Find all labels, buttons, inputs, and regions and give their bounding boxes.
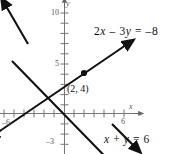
eq2-equals: =: [133, 133, 140, 145]
graph-canvas: [0, 0, 178, 154]
y-tick-label-5: 5: [55, 60, 59, 68]
coordinate-graph-figure: 10 5 –3 –6 6 x y (2, 4) 2x – 3y = –8 x +…: [0, 0, 178, 154]
x-axis-label: x: [129, 103, 133, 111]
equation-label-line-2: x + y = 6: [104, 134, 150, 146]
eq1-operator: –: [110, 25, 116, 37]
eq2-var-y: y: [124, 133, 130, 145]
equation-label-line-1: 2x – 3y = –8: [94, 26, 158, 38]
eq1-equals: =: [135, 25, 142, 37]
intersection-point-label: (2, 4): [67, 84, 89, 94]
y-tick-label-10: 10: [51, 9, 59, 17]
eq2-var-x: x: [104, 133, 110, 145]
x-tick-label-6: 6: [121, 118, 125, 126]
intersection-point: [81, 70, 87, 76]
y-axis-label: y: [66, 0, 70, 8]
eq2-rhs: 6: [144, 133, 150, 145]
eq1-rhs: –8: [146, 25, 159, 37]
y-tick-label-neg3: –3: [46, 138, 54, 146]
eq2-operator: +: [113, 133, 120, 145]
x-tick-label-neg6: –6: [2, 119, 10, 127]
y-axis: [61, 2, 69, 154]
line-2x-minus-3y: [0, 45, 126, 134]
eq1-var-x: x: [100, 25, 106, 37]
eq1-var-y: y: [126, 25, 132, 37]
